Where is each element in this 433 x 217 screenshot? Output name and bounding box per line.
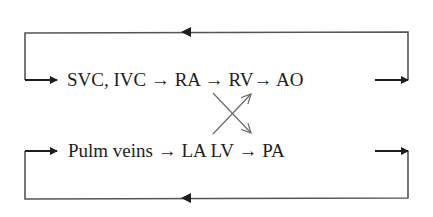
bottom-loop-arrowhead-icon (181, 193, 191, 203)
circulation-diagram (0, 0, 433, 217)
cross-arrow-up-icon (213, 94, 251, 134)
pulmonary-row-label: Pulm veins → LA LV → PA (68, 141, 285, 160)
systemic-row-label: SVC, IVC → RA → RV→ AO (67, 70, 304, 89)
cross-arrow-down-icon (213, 93, 251, 133)
cross-arrows (213, 93, 251, 134)
top-loop-arrowhead-icon (181, 27, 191, 37)
